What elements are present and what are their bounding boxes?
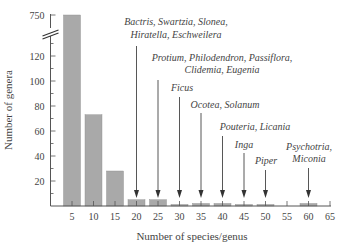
x-tick-label: 40 <box>218 211 228 222</box>
arrowhead-icon <box>242 190 247 198</box>
x-tick-label: 35 <box>196 211 206 222</box>
arrowhead-icon <box>177 190 182 198</box>
arrowhead-icon <box>199 190 204 198</box>
annotation-label: Clidemia, Eugenia <box>185 64 260 75</box>
y-tick-label: 120 <box>30 51 45 62</box>
annotation-label: Psychotria, <box>285 141 332 152</box>
bar-15 <box>107 171 124 206</box>
x-tick-label: 15 <box>110 211 120 222</box>
annotation-label: Bactris, Swartzia, Sloneа, <box>124 16 228 27</box>
annotation-label: Pouteria, Licania <box>219 121 291 132</box>
axis-break-mark <box>43 30 59 36</box>
x-tick-label: 30 <box>175 211 185 222</box>
y-tick-label: 40 <box>35 151 45 162</box>
annotation-label: Hiratella, Eschweilera <box>129 29 221 40</box>
x-tick-label: 60 <box>304 211 314 222</box>
y-tick-label: 60 <box>35 126 45 137</box>
x-tick-label: 50 <box>261 211 271 222</box>
y-axis-title: Number of genera <box>2 70 14 150</box>
arrowhead-icon <box>263 190 268 198</box>
x-axis-title: Number of species/genus <box>136 230 247 242</box>
y-tick-label: 20 <box>35 176 45 187</box>
annotation-label: Inga <box>234 139 253 150</box>
y-tick-label: 100 <box>30 76 45 87</box>
y-tick-label: 80 <box>35 101 45 112</box>
annotation-label: Miconia <box>291 153 325 164</box>
annotations-group: Bactris, Swartzia, Sloneа,Hiratella, Esc… <box>124 16 332 198</box>
arrowhead-icon <box>220 190 225 198</box>
x-tick-label: 55 <box>282 211 292 222</box>
arrowhead-icon <box>134 190 139 198</box>
annotation-label: Piper <box>254 155 277 166</box>
x-tick-label: 20 <box>132 211 142 222</box>
annotation-label: Ficus <box>170 82 193 93</box>
x-tick-label: 5 <box>70 211 75 222</box>
bars-group <box>64 15 318 206</box>
annotation-label: Protium, Philodendron, Passiflora, <box>151 52 293 63</box>
y-tick-label: 750 <box>30 10 45 21</box>
bar-10 <box>85 115 102 206</box>
x-tick-label: 25 <box>153 211 163 222</box>
bar-5 <box>64 15 81 206</box>
annotation-label: Ocotea, Solanum <box>191 99 260 110</box>
arrowhead-icon <box>156 190 161 198</box>
bar-chart: 2040608010012075051015202530354045505560… <box>0 0 350 250</box>
x-tick-label: 45 <box>239 211 249 222</box>
x-tick-label: 10 <box>89 211 99 222</box>
arrowhead-icon <box>306 190 311 198</box>
x-tick-label: 65 <box>325 211 335 222</box>
